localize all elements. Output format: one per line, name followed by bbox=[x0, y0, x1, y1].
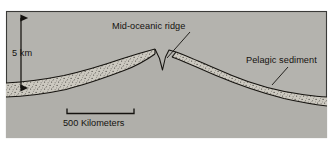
figure-root: 5 km Mid-oceanic ridge Pelagic sediment … bbox=[0, 0, 335, 150]
cross-section-diagram: 5 km Mid-oceanic ridge Pelagic sediment … bbox=[0, 0, 335, 150]
ridge-label: Mid-oceanic ridge bbox=[112, 21, 185, 31]
vertical-scale-label: 5 km bbox=[12, 48, 32, 58]
horizontal-scale-label: 500 Kilometers bbox=[63, 118, 125, 128]
sediment-label: Pelagic sediment bbox=[246, 55, 317, 65]
